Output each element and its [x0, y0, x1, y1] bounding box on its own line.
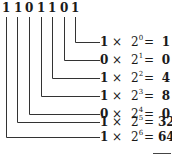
- row-value: 32: [158, 115, 170, 129]
- exponent: 4: [139, 106, 143, 114]
- row-digit: 1: [100, 71, 108, 85]
- exponent: 0: [139, 34, 143, 42]
- equals-sign: =: [144, 71, 154, 85]
- exponent: 2: [139, 70, 143, 78]
- base: 2: [131, 71, 139, 85]
- multiply-sign: ×: [112, 71, 122, 85]
- row-value: 64: [158, 130, 170, 144]
- row-digit: 0: [100, 53, 108, 67]
- exponent: 3: [139, 88, 143, 96]
- row-value: 4: [158, 71, 170, 85]
- base: 2: [131, 35, 139, 49]
- equals-sign: =: [144, 53, 154, 67]
- base: 2: [131, 130, 139, 144]
- multiply-sign: ×: [112, 35, 122, 49]
- base: 2: [131, 89, 139, 103]
- power-of-two: 25: [131, 115, 143, 129]
- equals-sign: =: [144, 35, 154, 49]
- row-digit: 1: [100, 89, 108, 103]
- row-value: 1: [158, 35, 170, 49]
- multiply-sign: ×: [112, 89, 122, 103]
- power-of-two: 26: [131, 130, 143, 144]
- base: 2: [131, 53, 139, 67]
- sum-rule-line: [153, 153, 171, 154]
- exponent: 1: [139, 52, 143, 60]
- base: 2: [131, 115, 139, 129]
- power-of-two: 22: [131, 71, 143, 85]
- power-of-two: 21: [131, 53, 143, 67]
- multiply-sign: ×: [112, 115, 122, 129]
- power-of-two: 23: [131, 89, 143, 103]
- row-digit: 1: [100, 35, 108, 49]
- row-value: 8: [158, 89, 170, 103]
- row-value: 0: [158, 53, 170, 67]
- row-digit: 1: [100, 115, 108, 129]
- equals-sign: =: [144, 89, 154, 103]
- equals-sign: =: [144, 130, 154, 144]
- multiply-sign: ×: [112, 53, 122, 67]
- exponent: 5: [139, 114, 143, 122]
- equals-sign: =: [144, 115, 154, 129]
- row-digit: 1: [100, 130, 108, 144]
- power-of-two: 20: [131, 35, 143, 49]
- exponent: 6: [139, 129, 143, 137]
- multiply-sign: ×: [112, 130, 122, 144]
